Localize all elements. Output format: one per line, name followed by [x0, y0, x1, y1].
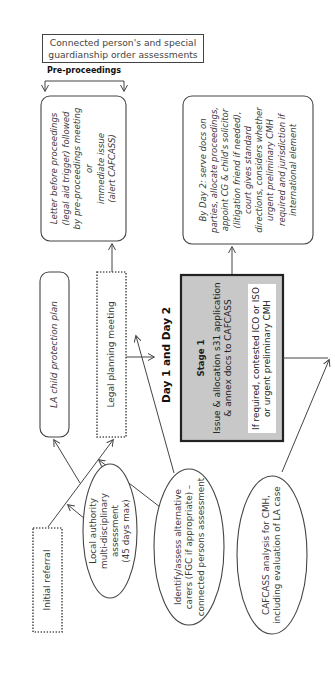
- stage-1-node: Stage 1 Issue & allocation s31 applicati…: [186, 278, 244, 438]
- la-assessment-line: assessment: [110, 505, 121, 557]
- stage-1-line: & annex docs to CAFCASS: [223, 299, 235, 416]
- day2-line: appoint CG & child's solicitor: [220, 109, 231, 232]
- day2-line: By Day 2: serve docs on: [198, 118, 209, 221]
- la-child-protection-plan-node: LA child protection plan: [40, 272, 69, 437]
- letter-line: (legal aid trigger) followed: [61, 112, 73, 226]
- by-day-2-node: By Day 2: serve docs on parties, allocat…: [186, 98, 311, 242]
- letter-line: immediate issue: [96, 133, 108, 204]
- letter-line: (alert CAFCASS): [107, 134, 119, 203]
- day2-line: urgent preliminary CMH: [265, 119, 276, 221]
- arrow-cafcass-to-stage: [282, 360, 329, 472]
- day2-line: directions, considers whether: [254, 107, 265, 233]
- pre-proceedings-label: Pre-proceedings: [47, 66, 121, 75]
- day2-line: parties, allocate proceedings,: [209, 107, 220, 233]
- day-1-and-day-2-label: Day 1 and Day 2: [157, 305, 175, 405]
- letter-line: or: [84, 164, 96, 173]
- stage-1-line: Issue & allocation s31 application: [212, 282, 224, 433]
- pre-proceedings-bracket: [45, 81, 124, 91]
- day-label-text: Day 1 and Day 2: [160, 307, 172, 403]
- day2-line: (litigation friend if needed),: [232, 112, 243, 229]
- day2-line: required and jurisdiction if: [277, 114, 288, 226]
- letter-before-proceedings-node: Letter before proceedings (legal aid tri…: [43, 98, 125, 239]
- legal-planning-meeting-text: Legal planning meeting: [106, 301, 118, 407]
- stage-1-inner-node: If required, contested ICO or ISO or urg…: [248, 284, 276, 433]
- stage-1-inner-line: If required, contested ICO or ISO: [251, 287, 263, 430]
- stage-1-inner-line: or urgent preliminary CMH: [262, 300, 274, 417]
- day2-line: court gives standard: [243, 126, 254, 214]
- initial-referral-node: Initial referral: [33, 528, 62, 632]
- arrow-referral-to-plan: [54, 440, 80, 483]
- legal-planning-meeting-node: Legal planning meeting: [97, 272, 126, 437]
- cafcass-analysis-node: CAFCASS analysis for CMH, including eval…: [258, 480, 286, 630]
- initial-referral-text: Initial referral: [42, 550, 54, 611]
- la-assessment-line: Local authority: [88, 498, 99, 564]
- letter-line: by pre-proceedings meeting: [72, 108, 84, 230]
- identify-assess-carers-node: Identify/assess alternative carers (FGC …: [170, 472, 210, 622]
- la-assessment-line: multi-disciplinary: [99, 493, 110, 569]
- la-assessment-line: (45 days max): [121, 499, 132, 563]
- la-child-protection-plan-text: LA child protection plan: [49, 301, 61, 408]
- day2-line: international element: [288, 124, 299, 216]
- connected-persons-note: Connected person's and special guardians…: [42, 34, 204, 63]
- stage-1-title: Stage 1: [196, 339, 206, 376]
- local-authority-assessment-node: Local authority multi-disciplinary asses…: [84, 472, 136, 590]
- cafcass-line: CAFCASS analysis for CMH,: [261, 495, 273, 615]
- identify-line: connected persons assessment: [196, 478, 208, 617]
- identify-line: carers (FGC if appropriate) –: [184, 485, 196, 610]
- letter-line: Letter before proceedings: [49, 113, 61, 225]
- identify-line: Identify/assess alternative: [173, 489, 185, 605]
- arrow-assessment-to-line: [68, 505, 85, 519]
- connected-persons-note-text: Connected person's and special guardians…: [43, 37, 203, 61]
- cafcass-line: including evaluation of LA case: [272, 486, 284, 623]
